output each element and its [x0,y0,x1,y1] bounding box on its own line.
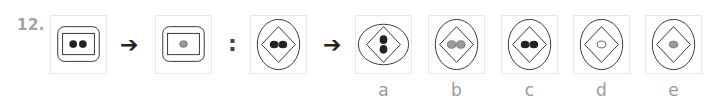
ellipse-diamond-two-gray-dots-icon [429,16,484,73]
option-b-label[interactable]: b [428,80,485,100]
option-c-label[interactable]: c [501,80,558,100]
analogy-figure-1 [50,15,107,74]
analogy-figure-3 [250,15,307,74]
ellipse-diamond-vertical-black-dots-icon [356,16,411,73]
arrow-icon: ➔ [323,32,341,57]
option-a-label[interactable]: a [355,80,412,100]
rect-one-gray-dot-icon [156,16,211,73]
ellipse-diamond-white-dot-icon [574,16,629,73]
ellipse-diamond-two-black-dots-icon [502,16,557,73]
ellipse-diamond-two-black-dots-icon [251,16,306,73]
option-d-label[interactable]: d [573,80,630,100]
arrow-icon: ➔ [120,32,138,57]
option-b-figure[interactable] [428,15,485,74]
option-d-figure[interactable] [573,15,630,74]
option-e-figure[interactable] [645,15,702,74]
option-a-figure[interactable] [355,15,412,74]
question-number: 12. [17,16,45,34]
option-e-label[interactable]: e [645,80,702,100]
analogy-figure-2 [155,15,212,74]
rect-two-black-dots-icon [51,16,106,73]
ellipse-diamond-gray-dot-icon [646,16,701,73]
colon-separator: : [228,31,237,56]
option-c-figure[interactable] [501,15,558,74]
